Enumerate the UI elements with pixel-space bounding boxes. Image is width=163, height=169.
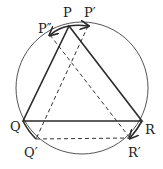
label-q: Q (10, 119, 21, 134)
label-q-prime: Q′ (24, 145, 38, 160)
label-p: P (63, 5, 72, 20)
dashed-edge-p1-q1 (36, 26, 88, 139)
label-p-prime: P′ (84, 5, 96, 20)
inscribed-triangle-diagram: P P′ P″ Q Q′ R R′ (0, 0, 163, 169)
label-r-prime: R′ (128, 145, 141, 160)
label-p-double-prime: P″ (38, 21, 52, 36)
dashed-edge-q1-r1 (36, 138, 130, 139)
arc-arrow-r-to-r1 (130, 121, 142, 138)
dashed-edge-p2-r1 (50, 35, 130, 138)
triangle-pqr (23, 26, 142, 121)
arc-arrow-p-to-p1 (69, 25, 88, 26)
arc-arrow-q-to-q1 (23, 121, 36, 139)
label-r: R (145, 122, 156, 137)
